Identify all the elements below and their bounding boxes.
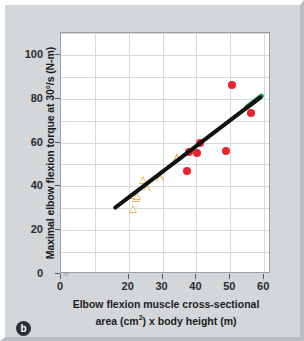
x-tick-mark <box>128 274 129 279</box>
y-tick-label: 100 <box>25 48 43 60</box>
regression-line-path <box>115 97 260 207</box>
y-tick-mark <box>55 98 60 99</box>
axis-break-icon: ≈ <box>63 269 68 279</box>
x-tick-label: 30 <box>155 280 167 292</box>
x-tick-label: 60 <box>257 280 269 292</box>
x-tick-label: 20 <box>122 280 134 292</box>
x-axis-title-line1: Elbow flexion muscle cross-sectional <box>73 298 260 310</box>
x-axis-title-line2-pre: area (cm <box>95 315 138 327</box>
x-tick-label: 40 <box>189 280 201 292</box>
x-tick-label: 0 <box>57 280 63 292</box>
y-tick-mark <box>55 229 60 230</box>
y-axis-title-container: Maximal elbow flexion torque at 30°/s (N… <box>23 32 45 273</box>
x-tick-mark <box>263 274 264 279</box>
x-tick-mark <box>195 274 196 279</box>
y-tick-mark <box>55 142 60 143</box>
panel-label-badge: b <box>16 321 31 336</box>
x-tick-mark <box>162 274 163 279</box>
x-tick-mark <box>60 274 61 279</box>
y-tick-label: 40 <box>31 179 43 191</box>
x-axis-title: Elbow flexion muscle cross-sectional are… <box>41 298 291 328</box>
figure-panel: Maximal elbow flexion torque at 30°/s (N… <box>0 0 304 341</box>
x-tick-label: 50 <box>223 280 235 292</box>
y-axis-title: Maximal elbow flexion torque at 30°/s (N… <box>44 38 56 268</box>
gridline-horizontal <box>61 274 269 275</box>
y-tick-label: 80 <box>31 92 43 104</box>
plot-area <box>60 32 270 273</box>
y-tick-label: 20 <box>31 223 43 235</box>
y-tick-label: 60 <box>31 136 43 148</box>
y-tick-mark <box>55 54 60 55</box>
y-tick-label: 0 <box>37 267 43 279</box>
x-axis-title-line2-post: ) x body height (m) <box>143 315 237 327</box>
y-tick-mark <box>55 185 60 186</box>
x-tick-mark <box>229 274 230 279</box>
regression-line <box>61 33 271 274</box>
